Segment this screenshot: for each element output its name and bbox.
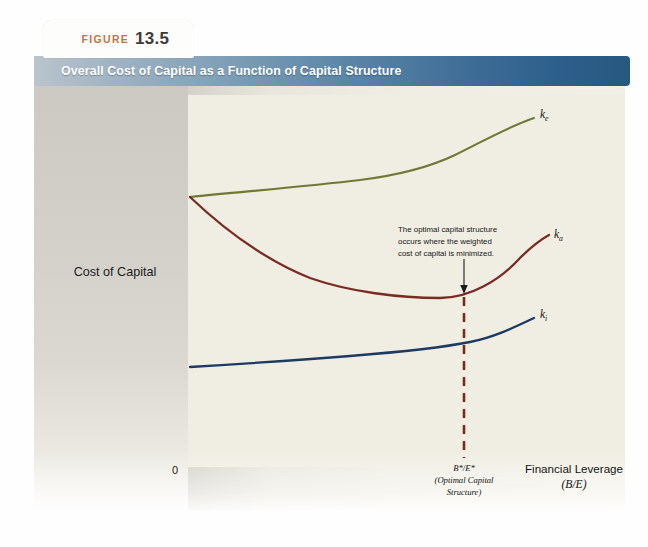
origin-label: 0 bbox=[172, 464, 178, 476]
optimal-structure-annotation: The optimal capital structure occurs whe… bbox=[398, 224, 520, 260]
figure-container: FIGURE 13.5 Overall Cost of Capital as a… bbox=[0, 0, 648, 547]
figure-title-bar: Overall Cost of Capital as a Function of… bbox=[34, 56, 630, 86]
optimal-ratio-label: B*/E* bbox=[405, 462, 523, 474]
x-axis-label: Financial Leverage (B/E) bbox=[512, 461, 636, 494]
curve-label-ki: ki bbox=[540, 308, 547, 323]
optimal-sub-line-2: Structure) bbox=[405, 486, 523, 498]
curve-label-ke: ke bbox=[540, 108, 549, 123]
annotation-line-2: occurs where the weighted bbox=[398, 236, 520, 248]
optimal-sub-line-1: (Optimal Capital bbox=[405, 474, 523, 486]
curve-label-ki-sub: i bbox=[545, 314, 547, 323]
curve-label-ka: ka bbox=[554, 228, 563, 243]
x-axis-label-line-2: (B/E) bbox=[512, 477, 636, 493]
annotation-line-3: cost of capital is minimized. bbox=[398, 248, 520, 260]
left-gutter-panel bbox=[34, 86, 188, 511]
figure-word-label: FIGURE bbox=[82, 33, 129, 45]
x-axis-label-line-1: Financial Leverage bbox=[512, 461, 636, 477]
plot-panel bbox=[188, 95, 625, 467]
optimal-structure-axis-label: B*/E* (Optimal Capital Structure) bbox=[405, 462, 523, 499]
annotation-line-1: The optimal capital structure bbox=[398, 224, 520, 236]
figure-number-label: 13.5 bbox=[135, 29, 169, 49]
curve-label-ke-sub: e bbox=[545, 114, 548, 123]
figure-title-text: Overall Cost of Capital as a Function of… bbox=[61, 56, 401, 86]
y-axis-label: Cost of Capital bbox=[40, 265, 190, 279]
figure-body-card bbox=[34, 86, 625, 511]
curve-label-ka-sub: a bbox=[559, 234, 563, 243]
figure-number-tab: FIGURE 13.5 bbox=[43, 20, 194, 58]
